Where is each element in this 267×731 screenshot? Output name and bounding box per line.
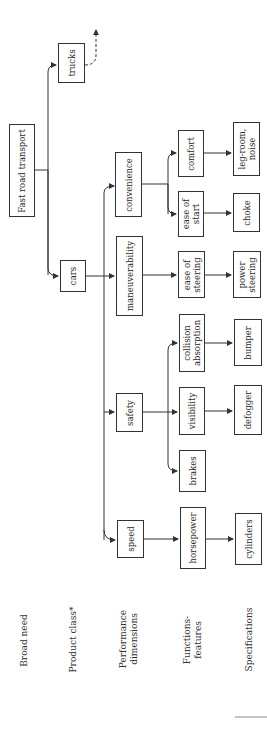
node-power-steering: power steering [233, 251, 261, 298]
node-label: maneuverability [125, 241, 135, 311]
level-label-broad-need: Broad need [10, 612, 38, 668]
node-maneuverability: maneuverability [116, 236, 143, 316]
node-horsepower: horsepower [180, 507, 206, 569]
node-label: speed [126, 526, 136, 551]
node-cylinders: cylinders [235, 513, 262, 565]
node-ease-of-start: ease of start [178, 191, 204, 237]
level-label-text: Specifications [245, 607, 256, 671]
node-label: cars [68, 267, 78, 285]
node-label: Fast road transport [17, 129, 27, 213]
node-leg-room-noise: leg-room, noise [233, 122, 260, 176]
node-label: defogger [243, 391, 253, 430]
node-brakes: brakes [179, 450, 206, 492]
node-defogger: defogger [234, 385, 262, 435]
level-label-text: Performance dimensions [118, 610, 140, 668]
node-label: convenience [124, 158, 134, 212]
node-label: brakes [188, 456, 198, 485]
node-trucks: trucks [58, 43, 85, 83]
node-label: bumper [243, 326, 253, 360]
node-label: collision absorption [182, 320, 202, 366]
level-label-functions-features: Functions- features [177, 612, 209, 668]
node-collision-absorption: collision absorption [179, 314, 205, 372]
node-choke: choke [233, 193, 260, 232]
level-label-performance-dimensions: Performance dimensions [113, 608, 145, 670]
node-label: trucks [67, 49, 77, 76]
node-ease-of-steering: ease of steering [178, 251, 205, 298]
level-label-text: Product class* [69, 606, 80, 672]
node-safety: safety [116, 393, 143, 432]
node-label: ease of start [181, 199, 201, 229]
node-label: safety [125, 400, 135, 426]
node-comfort: comfort [178, 130, 204, 177]
node-label: visibility [187, 393, 197, 429]
level-label-product-class: Product class* [60, 608, 88, 670]
node-label: horsepower [188, 513, 198, 564]
node-cars: cars [60, 260, 86, 292]
node-fast-road-transport: Fast road transport [9, 124, 35, 217]
node-label: ease of steering [182, 257, 202, 293]
node-label: choke [242, 200, 252, 226]
level-label-text: Functions- features [182, 616, 204, 664]
level-label-text: Broad need [19, 614, 30, 667]
node-bumper: bumper [234, 319, 262, 366]
node-label: comfort [186, 137, 196, 171]
node-convenience: convenience [115, 152, 142, 217]
level-label-specifications: Specifications [236, 608, 264, 670]
node-visibility: visibility [179, 387, 205, 435]
node-label: power steering [237, 257, 257, 293]
node-label: cylinders [244, 519, 254, 558]
node-speed: speed [117, 520, 144, 558]
node-label: leg-room, noise [237, 128, 257, 169]
